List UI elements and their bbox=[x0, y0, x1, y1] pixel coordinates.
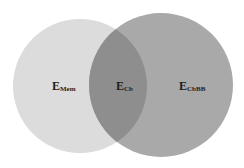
right-set-label-sub: CbBB bbox=[187, 85, 205, 93]
right-set-label: ECbBB bbox=[179, 80, 205, 92]
right-set-label-main: E bbox=[179, 79, 187, 93]
intersection-label: ECb bbox=[116, 80, 133, 92]
intersection-label-sub: Cb bbox=[124, 85, 133, 93]
left-set-label-sub: Mem bbox=[60, 85, 76, 93]
left-set-label-main: E bbox=[52, 79, 60, 93]
left-set-label: EMem bbox=[52, 80, 76, 92]
intersection-label-main: E bbox=[116, 79, 124, 93]
